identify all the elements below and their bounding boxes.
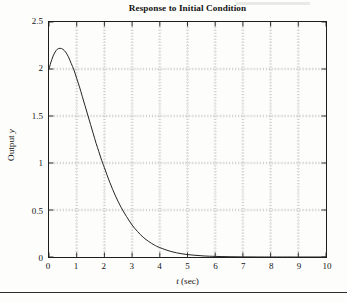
plot-area <box>48 21 327 258</box>
page-separator-rule <box>0 292 347 293</box>
x-tick-label: 4 <box>157 261 162 271</box>
x-tick-label: 9 <box>297 261 302 271</box>
y-tick-label: 2.5 <box>32 16 43 26</box>
y-tick-label: 1.5 <box>32 111 43 121</box>
x-tick-label: 1 <box>74 261 79 271</box>
x-tick-label: 5 <box>185 261 190 271</box>
x-tick-label: 7 <box>241 261 246 271</box>
figure-container: Response to Initial Condition 00.511.522… <box>0 0 347 302</box>
y-tick-label: 1 <box>39 158 44 168</box>
y-axis-label-text: Output <box>6 135 16 161</box>
x-tick-label: 6 <box>213 261 218 271</box>
y-tick-label: 2 <box>39 63 44 73</box>
y-tick-label: 0.5 <box>32 206 43 216</box>
y-tick-label: 0 <box>39 253 44 263</box>
x-tick-label: 2 <box>102 261 107 271</box>
y-axis-label-symbol: y <box>6 129 16 133</box>
x-axis-label: t (sec) <box>48 276 327 286</box>
x-tick-label: 3 <box>129 261 134 271</box>
response-curve <box>49 22 326 257</box>
y-axis-label: Output y <box>6 110 16 180</box>
x-tick-label: 8 <box>269 261 274 271</box>
chart-title: Response to Initial Condition <box>48 3 327 13</box>
x-axis-label-unit: (sec) <box>181 276 199 286</box>
x-tick-label: 10 <box>323 261 332 271</box>
x-tick-label: 0 <box>46 261 51 271</box>
x-axis-label-symbol: t <box>176 276 179 286</box>
